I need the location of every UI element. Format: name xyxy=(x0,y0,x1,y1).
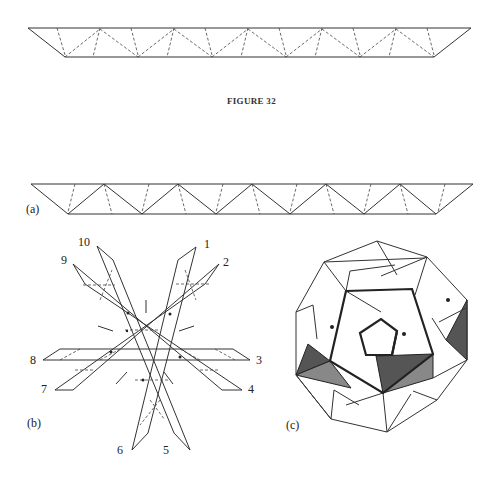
panel-a-label: (a) xyxy=(26,202,39,216)
figure-canvas: (a) xyxy=(0,0,503,481)
strip-number-8: 8 xyxy=(30,353,36,367)
strip-number-10: 10 xyxy=(78,235,90,249)
strip-number-9: 9 xyxy=(61,253,67,267)
strip-number-3: 3 xyxy=(256,353,262,367)
panel-b-weave: 1 2 3 4 5 6 7 8 9 10 (b) xyxy=(27,235,262,457)
panel-a-strip: (a) xyxy=(26,184,473,216)
strip-number-1: 1 xyxy=(204,237,210,251)
panel-b-label: (b) xyxy=(27,416,41,430)
top-strip xyxy=(28,28,471,57)
strip-number-6: 6 xyxy=(117,443,123,457)
strip-number-2: 2 xyxy=(223,255,229,269)
panel-c-polyhedron: (c) xyxy=(286,241,467,432)
strip-number-4: 4 xyxy=(248,382,254,396)
strip-number-5: 5 xyxy=(163,443,169,457)
panel-c-label: (c) xyxy=(286,418,299,432)
strip-number-7: 7 xyxy=(41,382,47,396)
